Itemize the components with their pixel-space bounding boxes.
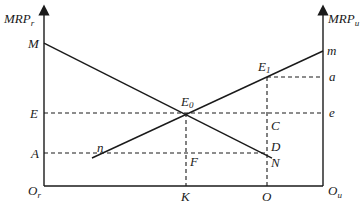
point-label-E0: E0 bbox=[180, 94, 194, 110]
mrp-r-curve-MN bbox=[44, 43, 272, 158]
point-label-C: C bbox=[271, 118, 280, 133]
mrp-diagram: MRPr MRPu Or Ou M m E A n E0 E1 a e C D … bbox=[0, 0, 364, 209]
left-axis-label: MRPr bbox=[3, 11, 35, 28]
point-label-E: E bbox=[29, 106, 38, 121]
point-label-e: e bbox=[329, 105, 335, 120]
point-label-M: M bbox=[27, 36, 40, 51]
point-label-a: a bbox=[329, 69, 336, 84]
point-label-n: n bbox=[97, 140, 104, 155]
point-label-F: F bbox=[189, 154, 199, 169]
point-label-K: K bbox=[180, 189, 191, 204]
point-label-E1: E1 bbox=[257, 59, 270, 75]
point-label-D: D bbox=[270, 139, 281, 154]
point-label-O: O bbox=[262, 189, 272, 204]
right-origin-label: Ou bbox=[328, 183, 342, 200]
point-label-A: A bbox=[30, 146, 39, 161]
point-label-m: m bbox=[327, 43, 336, 58]
mrp-u-curve-nm bbox=[92, 51, 323, 158]
right-axis-label: MRPu bbox=[327, 11, 360, 28]
point-label-N: N bbox=[270, 155, 281, 170]
left-origin-label: Or bbox=[28, 183, 41, 200]
